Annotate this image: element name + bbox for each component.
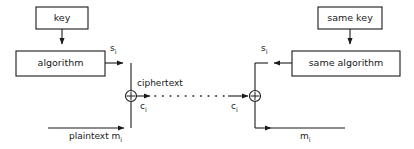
box-same-key bbox=[318, 7, 382, 29]
cipher-diagram: key algorithm same key same algorithm si… bbox=[0, 0, 414, 149]
box-same-algorithm bbox=[292, 51, 400, 76]
xor-node-encrypt bbox=[126, 91, 137, 102]
box-key bbox=[36, 7, 88, 29]
diagram-canvas bbox=[0, 0, 414, 149]
xor-node-decrypt bbox=[250, 91, 261, 102]
box-algorithm bbox=[16, 51, 105, 76]
